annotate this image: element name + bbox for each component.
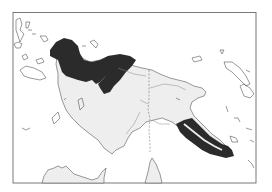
map-svg bbox=[0, 0, 272, 192]
distribution-map bbox=[0, 0, 272, 192]
